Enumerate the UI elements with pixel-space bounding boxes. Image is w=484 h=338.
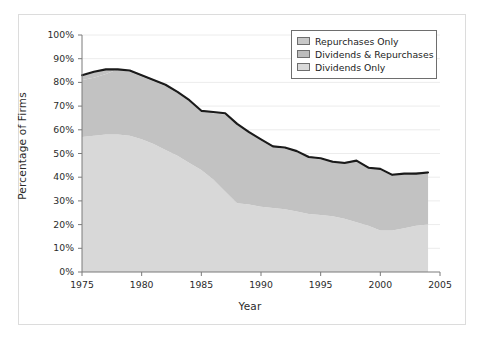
y-tick-label: 80% [40, 76, 74, 87]
y-tick-label: 50% [40, 148, 74, 159]
chart-legend: Repurchases Only Dividends & Repurchases… [291, 30, 437, 79]
x-axis-title: Year [200, 300, 300, 312]
y-tick-label: 20% [40, 219, 74, 230]
y-tick-label: 40% [40, 171, 74, 182]
x-tick-label: 1995 [301, 279, 341, 290]
x-tick-label: 1985 [181, 279, 221, 290]
legend-swatch-repurchases-only [297, 37, 310, 45]
y-tick-label: 0% [40, 266, 74, 277]
legend-swatch-dividends-and-repurchases [297, 50, 310, 58]
x-tick-label: 1990 [241, 279, 281, 290]
legend-item-repurchases-only: Repurchases Only [297, 35, 431, 47]
y-tick-label: 60% [40, 124, 74, 135]
legend-item-dividends-only: Dividends Only [297, 61, 431, 73]
y-axis-title: Percentage of Firms [16, 86, 28, 206]
legend-label-repurchases-only: Repurchases Only [315, 36, 399, 47]
x-tick-label: 2005 [420, 279, 460, 290]
legend-label-dividends-only: Dividends Only [315, 62, 385, 73]
x-tick-label: 1980 [122, 279, 162, 290]
x-tick-label: 2000 [360, 279, 400, 290]
y-tick-label: 70% [40, 100, 74, 111]
x-tick-label: 1975 [62, 279, 102, 290]
chart-figure: Percentage of Firms Year Repurchases Onl… [0, 0, 484, 338]
y-tick-label: 100% [40, 29, 74, 40]
y-tick-label: 30% [40, 195, 74, 206]
legend-label-dividends-and-repurchases: Dividends & Repurchases [315, 49, 434, 60]
legend-item-dividends-and-repurchases: Dividends & Repurchases [297, 48, 431, 60]
legend-swatch-dividends-only [297, 63, 310, 71]
y-tick-label: 90% [40, 53, 74, 64]
y-tick-label: 10% [40, 242, 74, 253]
